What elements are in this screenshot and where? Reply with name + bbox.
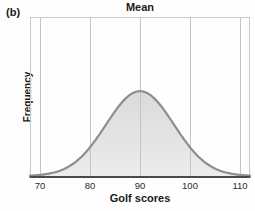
x-tick-label-110: 110 [232,180,247,191]
x-tick-label-100: 100 [182,180,198,191]
golf-scores-distribution-figure: (b) Mean Frequency 708090100110 Golf sco… [0,0,255,211]
x-tick-label-90: 90 [135,180,146,191]
x-axis-label-golf-scores: Golf scores [110,192,171,204]
x-tick-label-80: 80 [85,180,96,191]
x-tick-label-70: 70 [35,180,46,191]
